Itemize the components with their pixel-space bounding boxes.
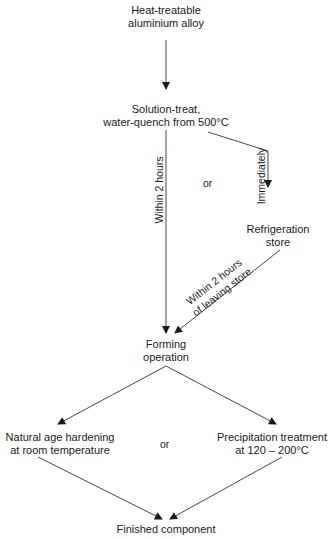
arrow-forming-to-natural — [58, 366, 166, 424]
node-text: Solution-treat, — [103, 103, 228, 116]
node-text: Finished component — [116, 523, 215, 536]
node-text: at room temperature — [6, 444, 115, 457]
node-text: Heat-treatable — [128, 4, 204, 17]
label-immediately: Immediately — [255, 148, 267, 205]
node-text: at 120 – 200°C — [217, 444, 327, 457]
node-text: aluminium alloy — [128, 17, 204, 30]
node-text: Forming — [143, 338, 189, 351]
node-finished-component: Finished component — [116, 523, 215, 536]
label-or-top: or — [203, 177, 212, 189]
node-text: Refrigeration — [247, 223, 310, 236]
label-or-bottom: or — [160, 438, 169, 450]
arrow-natural-to-finished — [38, 457, 162, 519]
node-text: Natural age hardening — [6, 431, 115, 444]
node-heat-treatable-alloy: Heat-treatable aluminium alloy — [128, 4, 204, 30]
node-text: operation — [143, 351, 189, 364]
node-natural-age-hardening: Natural age hardening at room temperatur… — [6, 431, 115, 457]
arrow-forming-to-precipitation — [166, 366, 276, 424]
flow-connectors — [0, 0, 334, 539]
node-refrigeration-store: Refrigeration store — [247, 223, 310, 249]
label-within-2-hours: Within 2 hours — [153, 156, 165, 223]
node-solution-treat: Solution-treat, water-quench from 500°C — [103, 103, 228, 129]
node-text: store — [247, 236, 310, 249]
arrow-precipitation-to-finished — [170, 457, 282, 519]
node-text: water-quench from 500°C — [103, 116, 228, 129]
node-forming-operation: Forming operation — [143, 338, 189, 364]
node-text: Precipitation treatment — [217, 431, 327, 444]
node-precipitation-treatment: Precipitation treatment at 120 – 200°C — [217, 431, 327, 457]
